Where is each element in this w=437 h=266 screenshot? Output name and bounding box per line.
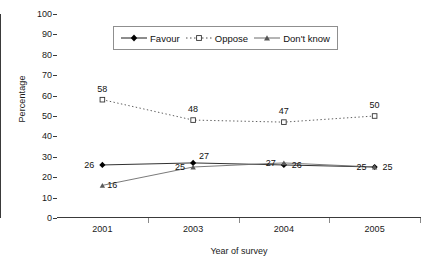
chart-figure: Percentage 1009080706050403020100 200120… (0, 0, 437, 266)
point-value-label: 25 (357, 162, 367, 172)
chart-legend: Favour Oppose Don't know (113, 26, 338, 50)
point-value-label: 48 (188, 104, 198, 114)
legend-marker-dont-know (254, 33, 280, 43)
legend-entry-oppose[interactable]: Oppose (186, 33, 248, 44)
legend-entry-dont-know[interactable]: Don't know (254, 33, 330, 44)
legend-label-oppose: Oppose (214, 33, 248, 44)
legend-marker-oppose (186, 33, 212, 43)
point-value-label: 26 (84, 160, 94, 170)
series-don-t-know (100, 161, 378, 188)
point-value-label: 47 (279, 106, 289, 116)
point-value-label: 16 (107, 180, 117, 190)
point-value-label: 58 (97, 84, 107, 94)
point-value-label: 27 (199, 151, 209, 161)
legend-marker-favour (121, 33, 147, 43)
point-value-label: 50 (370, 100, 380, 110)
page-caption-fragment (8, 258, 428, 264)
legend-label-favour: Favour (149, 33, 180, 44)
legend-label-dont-know: Don't know (282, 33, 330, 44)
point-value-label: 26 (292, 160, 302, 170)
point-value-label: 27 (266, 158, 276, 168)
series-oppose (100, 97, 377, 124)
point-value-label: 25 (175, 162, 185, 172)
point-value-label: 25 (383, 162, 393, 172)
legend-entry-favour[interactable]: Favour (121, 33, 180, 44)
